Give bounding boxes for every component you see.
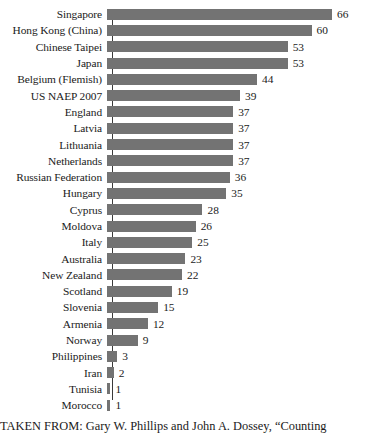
bar (107, 221, 196, 232)
bar-zone: 37 (107, 153, 372, 169)
category-label: Latvia (0, 122, 107, 134)
bar (107, 25, 312, 36)
bar (107, 123, 233, 134)
chart-row: Hong Kong (China)60 (0, 22, 372, 38)
bar-zone: 1 (107, 381, 372, 397)
category-label: Morocco (0, 399, 107, 411)
chart-row: Tunisia1 (0, 381, 372, 397)
bar-zone: 37 (107, 136, 372, 152)
bar-value-label: 66 (332, 8, 348, 20)
bar-zone: 53 (107, 55, 372, 71)
category-label: Moldova (0, 220, 107, 232)
category-label: Lithuania (0, 139, 107, 151)
bar (107, 253, 185, 264)
category-label: Hungary (0, 187, 107, 199)
bar (107, 237, 192, 248)
category-label: Japan (0, 57, 107, 69)
chart-row: Singapore66 (0, 6, 372, 22)
category-label: Hong Kong (China) (0, 24, 107, 36)
chart-row: Moldova26 (0, 218, 372, 234)
category-label: Iran (0, 367, 107, 379)
category-label: Slovenia (0, 301, 107, 313)
chart-plot-area: Singapore66Hong Kong (China)60Chinese Ta… (0, 6, 372, 402)
category-label: Australia (0, 253, 107, 265)
bar-zone: 19 (107, 283, 372, 299)
category-label: New Zealand (0, 269, 107, 281)
bar-value-label: 53 (288, 57, 304, 69)
bar-value-label: 15 (158, 301, 174, 313)
chart-row: Iran2 (0, 365, 372, 381)
bar-value-label: 26 (196, 220, 212, 232)
category-label: Norway (0, 334, 107, 346)
bar-value-label: 19 (172, 285, 188, 297)
chart-row: Lithuania37 (0, 136, 372, 152)
bar (107, 204, 202, 215)
chart-row: Russian Federation36 (0, 169, 372, 185)
bar-value-label: 53 (288, 41, 304, 53)
chart-row: England37 (0, 104, 372, 120)
bar (107, 351, 117, 362)
bar-value-label: 1 (110, 383, 121, 395)
bar-value-label: 28 (202, 204, 218, 216)
bar-zone: 22 (107, 267, 372, 283)
category-label: England (0, 106, 107, 118)
bar (107, 188, 226, 199)
chart-caption: TAKEN FROM: Gary W. Phillips and John A.… (0, 419, 372, 434)
category-label: Scotland (0, 285, 107, 297)
bar-value-label: 37 (233, 155, 249, 167)
bar-value-label: 44 (257, 73, 273, 85)
category-label: Chinese Taipei (0, 41, 107, 53)
category-label: Armenia (0, 318, 107, 330)
chart-row: Belgium (Flemish)44 (0, 71, 372, 87)
bar (107, 90, 240, 101)
bar-zone: 25 (107, 234, 372, 250)
bar-value-label: 12 (148, 318, 164, 330)
category-label: Netherlands (0, 155, 107, 167)
bar-zone: 39 (107, 87, 372, 103)
bar-value-label: 60 (312, 24, 328, 36)
bar-value-label: 23 (185, 253, 201, 265)
chart-row: Italy25 (0, 234, 372, 250)
bar (107, 318, 148, 329)
chart-row: Chinese Taipei53 (0, 39, 372, 55)
bar-value-label: 37 (233, 139, 249, 151)
bar (107, 172, 230, 183)
bar-zone: 1 (107, 397, 372, 413)
bar-zone: 53 (107, 39, 372, 55)
chart-row: Armenia12 (0, 316, 372, 332)
bar-value-label: 1 (110, 399, 121, 411)
chart-row: Norway9 (0, 332, 372, 348)
bar-value-label: 37 (233, 122, 249, 134)
bar-chart-figure: Singapore66Hong Kong (China)60Chinese Ta… (0, 0, 372, 435)
bar-zone: 28 (107, 202, 372, 218)
bar-zone: 37 (107, 104, 372, 120)
category-label: Italy (0, 236, 107, 248)
chart-row: Australia23 (0, 250, 372, 266)
bar-zone: 36 (107, 169, 372, 185)
bar (107, 106, 233, 117)
chart-row: Hungary35 (0, 185, 372, 201)
chart-row: New Zealand22 (0, 267, 372, 283)
bar (107, 74, 257, 85)
bar-value-label: 37 (233, 106, 249, 118)
chart-row: US NAEP 200739 (0, 87, 372, 103)
bar-zone: 23 (107, 250, 372, 266)
bar (107, 269, 182, 280)
bar-zone: 3 (107, 348, 372, 364)
chart-row: Netherlands37 (0, 153, 372, 169)
category-label: Cyprus (0, 204, 107, 216)
bar-value-label: 25 (192, 236, 208, 248)
bar (107, 335, 138, 346)
bar-zone: 9 (107, 332, 372, 348)
bar-value-label: 39 (240, 90, 256, 102)
chart-row: Japan53 (0, 55, 372, 71)
bar (107, 41, 288, 52)
category-label: Tunisia (0, 383, 107, 395)
bar (107, 286, 172, 297)
chart-row: Cyprus28 (0, 202, 372, 218)
bar-zone: 26 (107, 218, 372, 234)
bar (107, 155, 233, 166)
bar (107, 367, 114, 378)
bar (107, 58, 288, 69)
chart-row: Scotland19 (0, 283, 372, 299)
